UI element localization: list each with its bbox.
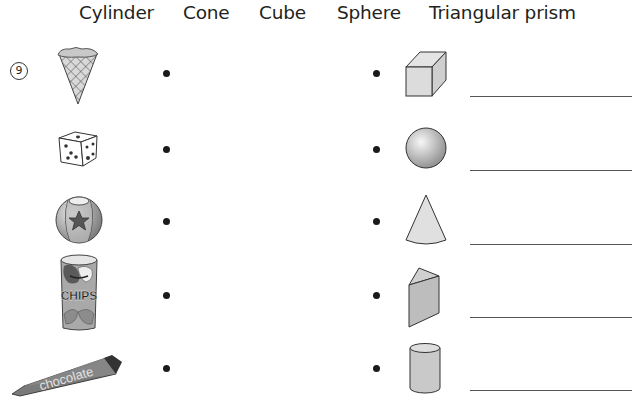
- header-label-cube: Cube: [259, 2, 306, 23]
- header-label-cylinder: Cylinder: [79, 2, 154, 23]
- chips-can-icon: CHIPS: [58, 252, 100, 332]
- header-label-sphere: Sphere: [337, 2, 401, 23]
- die-icon: [57, 128, 99, 168]
- problem-number: 9: [10, 62, 28, 80]
- answer-line-5[interactable]: [470, 390, 632, 391]
- cube-shape-icon: [404, 50, 448, 98]
- answer-line-1[interactable]: [470, 96, 632, 97]
- answer-line-2[interactable]: [470, 170, 632, 171]
- beach-ball-icon: [54, 194, 104, 244]
- right-dot-3[interactable]: [373, 218, 380, 225]
- cylinder-shape-icon: [407, 342, 443, 396]
- answer-line-4[interactable]: [470, 317, 632, 318]
- left-dot-5[interactable]: [163, 365, 170, 372]
- triangular-prism-shape-icon: [405, 265, 445, 329]
- sphere-shape-icon: [404, 126, 448, 170]
- left-dot-2[interactable]: [163, 146, 170, 153]
- left-dot-4[interactable]: [163, 292, 170, 299]
- left-dot-1[interactable]: [163, 70, 170, 77]
- right-dot-1[interactable]: [373, 70, 380, 77]
- header-label-triangular-prism: Triangular prism: [429, 2, 576, 23]
- answer-line-3[interactable]: [470, 244, 632, 245]
- right-dot-4[interactable]: [373, 292, 380, 299]
- right-dot-5[interactable]: [373, 365, 380, 372]
- header-label-cone: Cone: [183, 2, 230, 23]
- chips-label: CHIPS: [61, 289, 98, 303]
- chocolate-label: chocolate: [37, 364, 95, 394]
- right-dot-2[interactable]: [373, 146, 380, 153]
- chocolate-bar-icon: chocolate: [8, 348, 126, 398]
- left-dot-3[interactable]: [163, 218, 170, 225]
- cone-shape-icon: [404, 193, 448, 249]
- ice-cream-cone-icon: [56, 46, 100, 106]
